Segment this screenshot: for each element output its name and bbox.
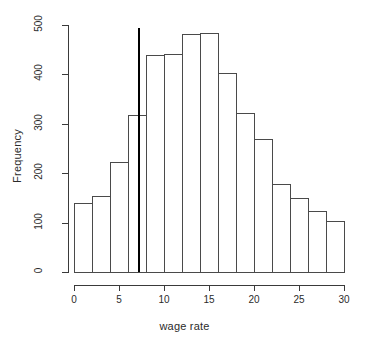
- x-axis-title: wage rate: [0, 320, 369, 332]
- x-axis-tick-label: 10: [144, 294, 184, 305]
- x-axis-tick-label: 5: [99, 294, 139, 305]
- x-axis-tick: [299, 285, 300, 291]
- y-axis-tick-label: 300: [33, 102, 44, 142]
- y-axis-tick: [62, 272, 68, 273]
- x-axis-tick-label: 0: [54, 294, 94, 305]
- histogram-bar: [326, 221, 345, 272]
- y-axis-title: Frequency: [11, 111, 23, 201]
- histogram-bar: [218, 73, 237, 272]
- histogram-bar: [128, 115, 147, 272]
- histogram-bar: [164, 54, 183, 272]
- x-axis-tick-label: 15: [189, 294, 229, 305]
- y-axis-tick: [62, 124, 68, 125]
- y-axis-tick-label: 100: [33, 201, 44, 241]
- x-axis-tick-label: 25: [279, 294, 319, 305]
- histogram-bar: [236, 113, 255, 272]
- x-axis-tick-label: 20: [234, 294, 274, 305]
- histogram-bar: [290, 198, 309, 272]
- y-axis-tick-label: 0: [33, 251, 44, 291]
- histogram-bar: [254, 139, 273, 272]
- x-axis-tick: [164, 285, 165, 291]
- histogram-bar: [92, 196, 111, 272]
- histogram-bar: [308, 211, 327, 272]
- x-axis-tick: [119, 285, 120, 291]
- x-axis-tick: [344, 285, 345, 291]
- histogram-bar: [74, 203, 93, 272]
- bar-baseline: [74, 272, 345, 273]
- y-axis-tick-label: 500: [33, 4, 44, 44]
- x-axis-tick: [254, 285, 255, 291]
- x-axis-tick-label: 30: [324, 294, 364, 305]
- histogram-bar: [272, 184, 291, 272]
- x-axis-tick: [74, 285, 75, 291]
- histogram-bar: [200, 33, 219, 272]
- histogram-bar: [182, 34, 201, 272]
- y-axis-tick-label: 400: [33, 53, 44, 93]
- y-axis-tick: [62, 74, 68, 75]
- histogram-plot: 0100200300400500051015202530 wage rate F…: [0, 0, 369, 353]
- y-axis-line: [68, 25, 69, 273]
- histogram-bar: [146, 55, 165, 272]
- y-axis-tick: [62, 173, 68, 174]
- x-axis-tick: [209, 285, 210, 291]
- y-axis-tick-label: 200: [33, 152, 44, 192]
- y-axis-tick: [62, 223, 68, 224]
- reference-line-vertical-line: [138, 28, 140, 272]
- y-axis-tick: [62, 25, 68, 26]
- histogram-bar: [110, 162, 129, 272]
